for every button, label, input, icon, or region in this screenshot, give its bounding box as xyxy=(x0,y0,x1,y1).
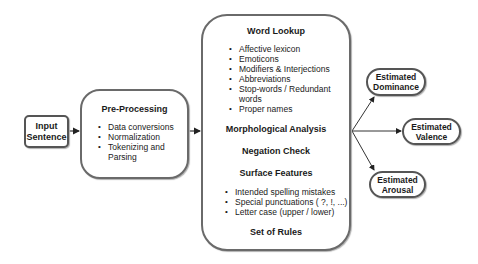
preprocessing-title: Pre-Processing xyxy=(82,104,187,114)
valence-label-line2: Valence xyxy=(411,132,452,142)
list-item: Letter case (upper / lower) xyxy=(223,207,351,217)
list-item: Affective lexicon xyxy=(227,44,342,54)
set-of-rules-title: Set of Rules xyxy=(203,227,349,238)
estimated-dominance-node: Estimated Dominance xyxy=(366,68,426,96)
preprocessing-list: Data conversions Normalization Tokenizin… xyxy=(96,122,187,162)
feature-extraction-node: Word Lookup Affective lexicon Emoticons … xyxy=(201,14,351,251)
dominance-label-line2: Dominance xyxy=(373,82,419,92)
morphological-analysis-title: Morphological Analysis xyxy=(203,124,349,135)
arrow-main-to-arousal xyxy=(352,131,374,170)
arrow-main-to-dominance xyxy=(352,97,374,131)
estimated-valence-node: Estimated Valence xyxy=(402,118,461,145)
list-item: Normalization xyxy=(96,132,187,142)
surface-features-list: Intended spelling mistakes Special punct… xyxy=(223,187,351,217)
list-item: Modifiers & Interjections xyxy=(227,64,342,74)
arousal-label-line1: Estimated xyxy=(377,175,418,185)
dominance-label-line1: Estimated xyxy=(373,72,419,82)
input-label-line1: Input xyxy=(26,121,66,132)
list-item: Special punctuations ( ?, !, ...) xyxy=(223,197,351,207)
surface-features-title: Surface Features xyxy=(203,168,349,179)
list-item: Data conversions xyxy=(96,122,187,132)
arousal-label-line2: Arousal xyxy=(377,185,418,195)
input-sentence-label: Input Sentence xyxy=(26,121,66,143)
input-label-line2: Sentence xyxy=(26,132,66,143)
list-item: Emoticons xyxy=(227,54,342,64)
negation-check-title: Negation Check xyxy=(203,146,349,157)
valence-label-line1: Estimated xyxy=(411,122,452,132)
list-item: Stop-words / Redundant words xyxy=(227,84,342,104)
word-lookup-title: Word Lookup xyxy=(203,26,349,37)
preprocessing-node: Pre-Processing Data conversions Normaliz… xyxy=(80,89,189,179)
input-sentence-node: Input Sentence xyxy=(24,115,69,148)
list-item: Intended spelling mistakes xyxy=(223,187,351,197)
list-item: Abbreviations xyxy=(227,74,342,84)
word-lookup-list: Affective lexicon Emoticons Modifiers & … xyxy=(227,44,342,114)
list-item: Proper names xyxy=(227,104,342,114)
list-item: Tokenizing and Parsing xyxy=(96,142,180,162)
estimated-arousal-node: Estimated Arousal xyxy=(369,171,426,198)
